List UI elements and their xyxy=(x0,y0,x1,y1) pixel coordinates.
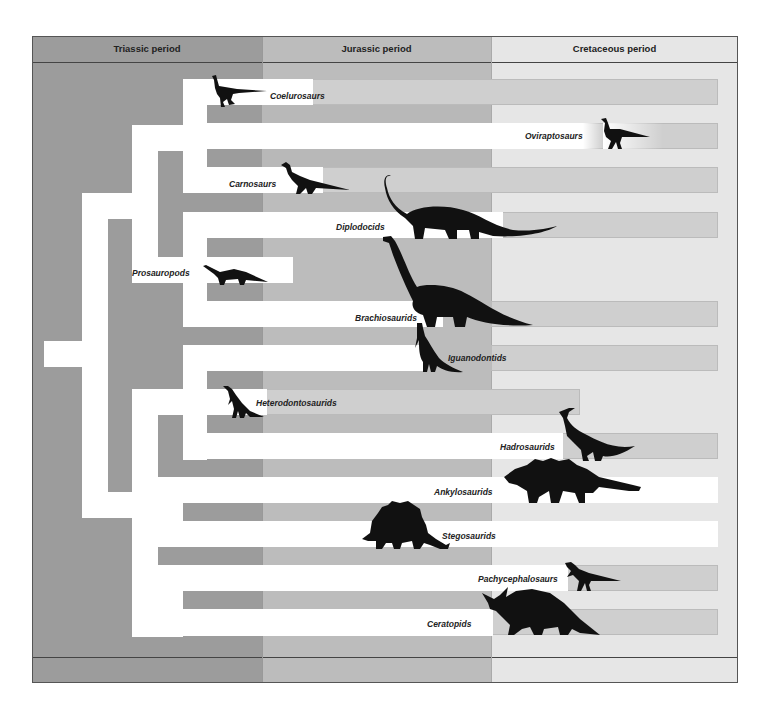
diagram-frame xyxy=(32,36,738,683)
dinosaur-phylogeny-diagram: Triassic period Jurassic period Cretaceo… xyxy=(0,0,770,720)
